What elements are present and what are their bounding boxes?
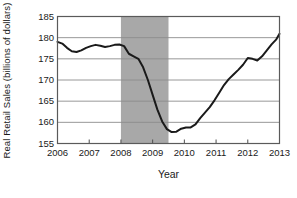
chart-figure: Real Retail Sales (billions of dollars) …	[0, 0, 297, 198]
x-tick-label: 2007	[72, 147, 106, 158]
x-tick-label: 2013	[263, 147, 297, 158]
x-tick-label: 2009	[136, 147, 170, 158]
x-tick-label: 2010	[167, 147, 201, 158]
x-tick-label: 2011	[199, 147, 233, 158]
x-tick-label: 2012	[231, 147, 265, 158]
x-axis-title: Year	[57, 168, 280, 180]
x-tick-label: 2006	[41, 147, 75, 158]
x-tick-label: 2008	[104, 147, 138, 158]
